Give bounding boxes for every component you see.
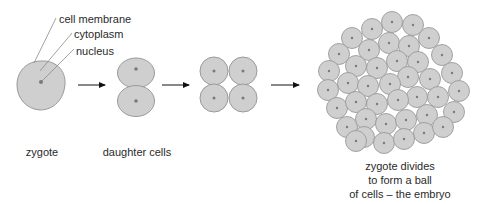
embryo-cell-nucleus xyxy=(396,60,398,62)
embryo-cell-nucleus xyxy=(391,21,393,23)
embryo-cell-nucleus xyxy=(442,126,444,128)
caption-embryo: zygote divides to form a ball of cells –… xyxy=(340,159,460,201)
embryo-cell-nucleus xyxy=(376,103,378,105)
caption-zygote: zygote xyxy=(22,145,62,159)
embryo-cell-nucleus xyxy=(408,45,410,47)
embryo-cell-nucleus xyxy=(347,82,349,84)
embryo-cell-nucleus xyxy=(327,89,329,91)
embryo-cell-nucleus xyxy=(346,126,348,128)
embryo-cell-nucleus xyxy=(412,24,414,26)
embryo-cell-nucleus xyxy=(397,99,399,101)
embryo-cell-nucleus xyxy=(437,96,439,98)
four-cell-stage xyxy=(200,57,257,112)
embryo-cell-nucleus xyxy=(417,61,419,63)
embryo-cell-nucleus xyxy=(355,65,357,67)
zygote-cell xyxy=(17,61,65,110)
caption-embryo-line-2: to form a ball xyxy=(340,173,460,187)
embryo-cell-nucleus xyxy=(428,37,430,39)
embryo-cell-nucleus xyxy=(367,85,369,87)
embryo-cell-nucleus xyxy=(407,76,409,78)
embryo-cell-nucleus xyxy=(388,42,390,44)
label-cytoplasm: cytoplasm xyxy=(74,29,124,40)
embryo-cell-nucleus xyxy=(405,119,407,121)
embryo-cell-nucleus xyxy=(385,123,387,125)
embryo-cell-nucleus xyxy=(328,70,330,72)
caption-daughter-cells: daughter cells xyxy=(100,145,174,159)
embryo-cell-nucleus xyxy=(355,101,357,103)
label-nucleus: nucleus xyxy=(76,46,114,57)
embryo-cell-nucleus xyxy=(383,142,385,144)
embryo-cell-nucleus xyxy=(403,138,405,140)
label-cell-membrane: cell membrane xyxy=(59,14,131,25)
embryo-ball xyxy=(318,12,470,154)
embryo-cell-nucleus xyxy=(376,67,378,69)
embryo-cell-nucleus xyxy=(423,132,425,134)
embryo-cell-nucleus xyxy=(355,140,357,142)
embryo-cell-nucleus xyxy=(351,37,353,39)
embryo-cell-nucleus xyxy=(426,114,428,116)
daughter-cells xyxy=(118,58,155,117)
embryo-cell-nucleus xyxy=(365,118,367,120)
embryo-cell-nucleus xyxy=(416,96,418,98)
embryo-cell-nucleus xyxy=(389,83,391,85)
caption-embryo-line-3: of cells – the embryo xyxy=(340,187,460,201)
embryo-cell-nucleus xyxy=(336,107,338,109)
embryo-cell-nucleus xyxy=(371,28,373,30)
embryo-cell-nucleus xyxy=(338,53,340,55)
embryo-cell-nucleus xyxy=(368,49,370,51)
embryo-cell-nucleus xyxy=(458,90,460,92)
embryo-cell-nucleus xyxy=(453,111,455,113)
embryo-cell-nucleus xyxy=(451,72,453,74)
caption-embryo-line-1: zygote divides xyxy=(340,159,460,173)
embryo-cell-nucleus xyxy=(441,54,443,56)
embryo-cell-nucleus xyxy=(429,78,431,80)
